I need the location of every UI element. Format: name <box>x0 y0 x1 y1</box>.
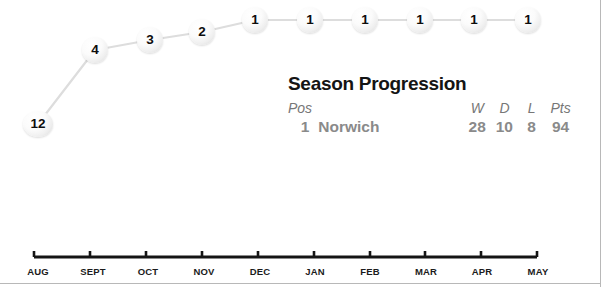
data-point-marker: 1 <box>297 7 323 33</box>
cell-position: 1 <box>288 117 309 137</box>
standings-header-row: Pos W D L Pts <box>288 100 576 118</box>
page-border-right <box>600 0 601 287</box>
axis-tick-label: JAN <box>305 266 325 277</box>
axis-tick-label: MAR <box>415 266 437 277</box>
panel-title: Season Progression <box>288 74 576 95</box>
header-losses: L <box>518 100 545 118</box>
cell-team: Norwich <box>309 117 463 137</box>
cell-losses: 8 <box>518 117 545 137</box>
data-point-marker: 1 <box>352 7 378 33</box>
axis-tick-label: NOV <box>193 266 214 277</box>
header-draws: D <box>491 100 518 118</box>
cell-points: 94 <box>545 117 576 137</box>
cell-wins: 28 <box>464 117 491 137</box>
page-border-bottom <box>0 283 601 284</box>
header-wins: W <box>464 100 491 118</box>
data-point-marker: 1 <box>242 7 268 33</box>
axis-tick-label: MAY <box>528 266 549 277</box>
cell-draws: 10 <box>491 117 518 137</box>
data-point-marker: 2 <box>189 19 215 45</box>
data-point-marker: 1 <box>407 7 433 33</box>
data-point-marker: 1 <box>515 7 541 33</box>
data-point-marker: 1 <box>461 7 487 33</box>
axis-tick-label: APR <box>472 266 493 277</box>
data-point-marker: 4 <box>82 37 108 63</box>
axis-tick-label: OCT <box>138 266 159 277</box>
season-progression-chart-page: 12 4 3 2 1 1 1 1 1 1 Season Progression … <box>0 0 607 299</box>
axis-tick-label: DEC <box>250 266 271 277</box>
x-axis: AUG SEPT OCT NOV DEC JAN FEB MAR APR MAY <box>0 246 607 286</box>
standings-row: 1 Norwich 28 10 8 94 <box>288 117 576 137</box>
axis-tick-label: FEB <box>360 266 380 277</box>
header-pos: Pos <box>288 100 310 118</box>
data-point-marker: 3 <box>137 27 163 53</box>
season-progression-panel: Season Progression Pos W D L Pts 1 Norwi… <box>288 74 576 138</box>
axis-tick-label: AUG <box>27 266 49 277</box>
header-points: Pts <box>545 100 576 118</box>
axis-tick-label: SEPT <box>80 266 106 277</box>
data-point-marker: 12 <box>23 111 53 137</box>
